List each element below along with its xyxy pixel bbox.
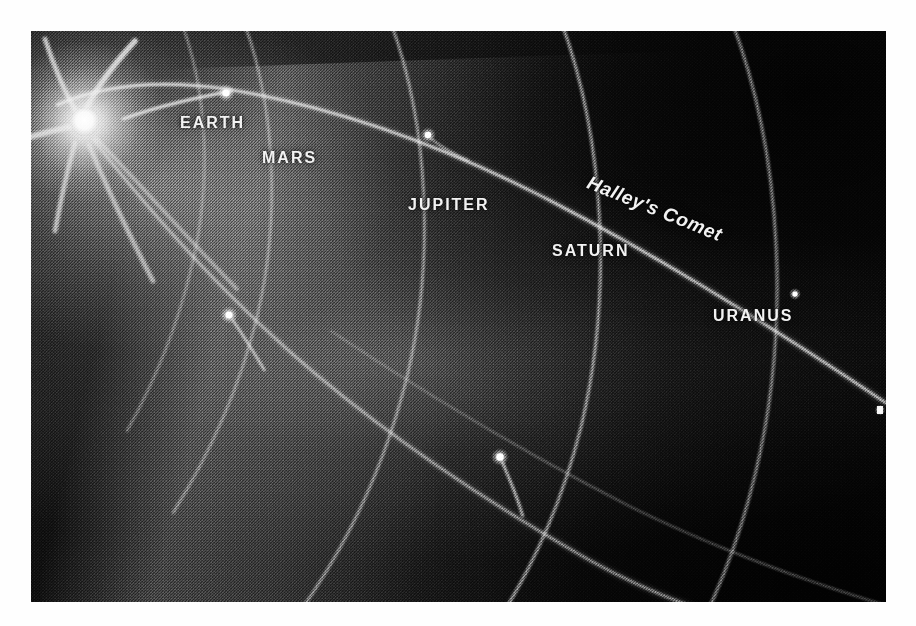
astronomy-plate-image: EARTH MARS JUPITER SATURN URANUS Halley'…: [31, 31, 886, 602]
solar-ray-down-left: [55, 143, 75, 231]
comet-marker-1: [217, 84, 235, 102]
comet-marker-4: [875, 405, 886, 416]
comet-marker-group: [217, 84, 886, 517]
comet-tertiary-path: [331, 331, 886, 602]
sun-icon: [71, 108, 99, 136]
planet-label-saturn: SATURN: [552, 242, 629, 260]
orbit-arc-saturn: [465, 31, 600, 602]
page-canvas: EARTH MARS JUPITER SATURN URANUS Halley'…: [0, 0, 916, 626]
solar-ray-up: [87, 41, 135, 107]
planet-label-earth: EARTH: [180, 114, 245, 132]
orbit-arc-jupiter: [299, 31, 424, 602]
solar-ray-group: [31, 39, 237, 289]
comet-marker-3: [789, 288, 801, 300]
planet-label-jupiter: JUPITER: [408, 196, 490, 214]
planet-label-uranus: URANUS: [713, 307, 793, 325]
solar-ray-left: [31, 127, 69, 139]
planet-label-mars: MARS: [262, 149, 317, 167]
